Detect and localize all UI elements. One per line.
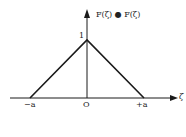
right-bound-label: +a [136, 101, 147, 109]
left-bound-label: −a [24, 101, 35, 109]
x-axis-label: ζ [179, 93, 183, 101]
y-axis-arrowhead-icon [84, 9, 90, 18]
origin-label: O [83, 101, 90, 109]
y-axis-label: F(ζ) ● F(ζ) [96, 11, 140, 19]
x-axis-arrowhead-icon [170, 95, 178, 101]
diagram-canvas [0, 0, 186, 137]
peak-value-label: 1 [79, 32, 84, 40]
